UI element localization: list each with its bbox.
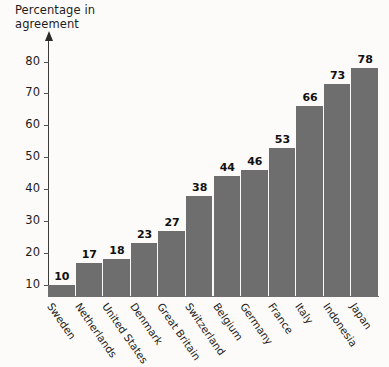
y-tick-label: 20	[16, 247, 40, 259]
y-tick-mark	[44, 93, 49, 94]
bar	[241, 170, 269, 296]
bar	[131, 243, 159, 296]
bar	[324, 84, 352, 296]
y-tick-label: 10	[16, 279, 40, 291]
y-tick-mark	[44, 62, 49, 63]
bar	[269, 148, 297, 296]
plot-area: 1020304050607080 10171823273844465366737…	[0, 0, 389, 367]
bar	[103, 259, 131, 296]
x-axis-label: France	[266, 301, 295, 336]
y-tick-label: 50	[16, 151, 40, 163]
y-tick-mark	[44, 125, 49, 126]
y-tick-label: 40	[16, 183, 40, 195]
bar	[351, 68, 379, 296]
y-tick-label: 30	[16, 215, 40, 227]
y-axis-arrow-icon	[45, 31, 53, 41]
y-tick-mark	[44, 253, 49, 254]
y-axis-line	[48, 40, 49, 296]
y-tick-mark	[44, 189, 49, 190]
y-tick-label: 60	[16, 119, 40, 131]
bar	[296, 106, 324, 296]
y-tick-label: 80	[16, 56, 40, 68]
y-tick-label: 70	[16, 87, 40, 99]
y-tick-mark	[44, 157, 49, 158]
bar	[76, 263, 104, 296]
bar	[186, 196, 214, 296]
bar	[48, 285, 76, 296]
bar	[214, 176, 242, 296]
bar	[158, 231, 186, 296]
bar-chart: Percentage in agreement 1020304050607080…	[0, 0, 389, 367]
x-axis-label: Japan	[348, 301, 374, 331]
x-axis-label: Italy	[293, 301, 315, 326]
bar-value-label: 78	[343, 54, 387, 65]
y-tick-mark	[44, 221, 49, 222]
